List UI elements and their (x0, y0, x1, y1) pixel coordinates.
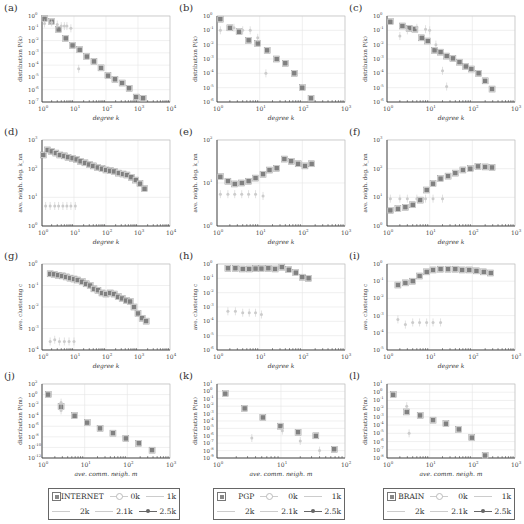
svg-text:10-2: 10-2 (373, 293, 384, 301)
svg-text:100: 100 (28, 259, 38, 267)
legend-item-2-5k: 2.5k (471, 507, 514, 516)
plot-k: 10010110210110010-110-210-310-410-510-61… (177, 370, 352, 482)
legend-item-2-1k: 2.1k (257, 507, 300, 516)
legend-label: 2.1k (281, 507, 297, 516)
svg-text:100: 100 (373, 387, 383, 395)
svg-text:10-6: 10-6 (203, 345, 214, 353)
svg-text:10-1: 10-1 (203, 25, 214, 33)
svg-text:10-1: 10-1 (28, 23, 39, 31)
svg-text:100: 100 (203, 259, 213, 267)
panel-e: (e)100101102103102101100degree kave. nei… (177, 126, 352, 250)
plot-e: 100101102103102101100degree kave. neigh.… (177, 126, 352, 250)
svg-text:ave. comm. neigh. m: ave. comm. neigh. m (419, 470, 482, 478)
svg-text:10-4: 10-4 (28, 345, 39, 353)
legend-marker-icon (474, 496, 492, 497)
svg-text:102: 102 (373, 164, 383, 172)
legend-item-0k: 0k (107, 492, 143, 501)
svg-text:10-3: 10-3 (203, 302, 214, 310)
svg-text:100: 100 (38, 104, 49, 112)
svg-text:102: 102 (123, 460, 134, 468)
svg-text:101: 101 (70, 352, 80, 360)
legend-label: 0k (288, 492, 297, 501)
legend-label: 0k (131, 492, 140, 501)
svg-text:100: 100 (38, 352, 49, 360)
svg-text:100: 100 (373, 259, 383, 267)
svg-text:10-2: 10-2 (373, 40, 384, 48)
panel-j: (j)10010110210310210010-210-410-610-810-… (2, 370, 177, 482)
svg-text:10-9: 10-9 (203, 453, 214, 461)
svg-text:101: 101 (373, 192, 382, 200)
svg-text:10-1: 10-1 (28, 281, 39, 289)
svg-text:101: 101 (256, 104, 266, 112)
svg-text:10-2: 10-2 (203, 288, 214, 296)
svg-text:101: 101 (70, 104, 80, 112)
plot-h: 10010110210310010-110-210-310-410-510-6d… (177, 250, 352, 374)
svg-text:10-6: 10-6 (28, 421, 39, 429)
svg-text:degree k: degree k (93, 238, 120, 246)
svg-text:10-10: 10-10 (28, 442, 42, 450)
legend-item-1k: 1k (471, 492, 514, 501)
legend-marker-icon (387, 492, 396, 501)
svg-text:100: 100 (213, 352, 224, 360)
svg-text:distribution P(k): distribution P(k) (192, 36, 198, 82)
svg-text:101: 101 (426, 352, 436, 360)
svg-text:10-3: 10-3 (373, 54, 384, 62)
legend-label: 2k (245, 507, 254, 516)
svg-text:distribution P(m): distribution P(m) (192, 397, 198, 445)
svg-text:100: 100 (373, 221, 383, 229)
plot-l: 10010110210310110010-110-210-310-410-510… (347, 370, 522, 482)
svg-text:distribution P(k): distribution P(k) (362, 36, 368, 82)
svg-text:distribution P(k): distribution P(k) (17, 36, 23, 82)
legend-marker-icon (217, 492, 226, 501)
legend-label: 2k (415, 507, 424, 516)
legend-label: 2.5k (495, 507, 511, 516)
svg-text:10-8: 10-8 (373, 453, 384, 461)
panel-k: (k)10010110210110010-110-210-310-410-510… (177, 370, 352, 482)
legend-item-2-5k: 2.5k (301, 507, 344, 516)
legend-label: 2.1k (451, 507, 467, 516)
svg-text:10-6: 10-6 (203, 97, 214, 105)
svg-text:10-5: 10-5 (373, 83, 384, 91)
svg-text:101: 101 (426, 460, 436, 468)
svg-text:degree k: degree k (268, 114, 295, 122)
panel-d: (d)100101102103104103102101100degree kav… (2, 126, 177, 250)
legend-label: BRAIN (398, 492, 424, 501)
svg-text:101: 101 (203, 178, 212, 186)
svg-text:degree k: degree k (438, 114, 465, 122)
legend-marker-icon (110, 496, 128, 497)
svg-text:103: 103 (511, 104, 522, 112)
legend-marker-icon (260, 496, 278, 497)
svg-text:100: 100 (383, 104, 394, 112)
legend-label: 1k (332, 492, 341, 501)
svg-text:10-4: 10-4 (28, 60, 39, 68)
svg-text:degree k: degree k (438, 362, 465, 370)
legend-pgp: PGP0k1k2k2.1k2.5k (213, 488, 345, 520)
svg-text:10-1: 10-1 (203, 273, 214, 281)
svg-text:103: 103 (511, 228, 522, 236)
svg-text:100: 100 (213, 460, 224, 468)
legend-item-1k: 1k (301, 492, 344, 501)
svg-text:10-3: 10-3 (28, 324, 39, 332)
svg-text:100: 100 (213, 228, 224, 236)
legend-item-dataset: BRAIN (384, 492, 427, 501)
svg-text:102: 102 (28, 164, 38, 172)
svg-text:10-5: 10-5 (203, 83, 214, 91)
svg-text:103: 103 (134, 352, 145, 360)
svg-text:10-7: 10-7 (373, 445, 384, 453)
legend-item-2-1k: 2.1k (92, 507, 135, 516)
svg-text:ave. clustering c: ave. clustering c (362, 284, 369, 330)
svg-text:10-4: 10-4 (28, 411, 39, 419)
legend-label: 1k (167, 492, 176, 501)
svg-text:10-5: 10-5 (28, 72, 39, 80)
legend-item-dataset: PGP (214, 492, 257, 501)
svg-text:10-6: 10-6 (373, 97, 384, 105)
panel-g: (g)10010110210310410010-110-210-310-4deg… (2, 250, 177, 374)
svg-text:101: 101 (277, 460, 287, 468)
legend-marker-icon (430, 496, 448, 497)
legend-item-2k: 2k (49, 507, 92, 516)
svg-text:103: 103 (28, 135, 38, 143)
legend-item-1k: 1k (143, 492, 179, 501)
svg-text:101: 101 (70, 228, 80, 236)
svg-text:ave. neigh. deg. k_nn: ave. neigh. deg. k_nn (362, 153, 369, 213)
legend-marker-icon (260, 511, 278, 512)
